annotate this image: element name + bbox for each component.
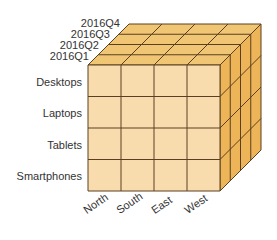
product-label-tablets: Tablets <box>2 139 82 151</box>
product-label-desktops: Desktops <box>2 76 82 88</box>
time-label-q1: 2016Q1 <box>0 50 89 62</box>
product-label-smartphones: Smartphones <box>2 170 82 182</box>
product-label-laptops: Laptops <box>2 107 82 119</box>
